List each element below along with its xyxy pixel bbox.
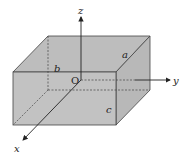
edge-c-label: c	[106, 104, 112, 115]
diagram-canvas: z y x O a b c	[0, 0, 188, 161]
origin-label: O	[71, 75, 79, 86]
z-axis-label: z	[77, 5, 84, 16]
box-coordinate-diagram: z y x O a b c	[0, 0, 188, 161]
edge-a-label: a	[122, 49, 128, 60]
y-axis-label: y	[172, 75, 179, 86]
x-axis-label: x	[14, 143, 20, 154]
edge-b-label: b	[54, 63, 60, 74]
box-front-face	[13, 72, 116, 125]
